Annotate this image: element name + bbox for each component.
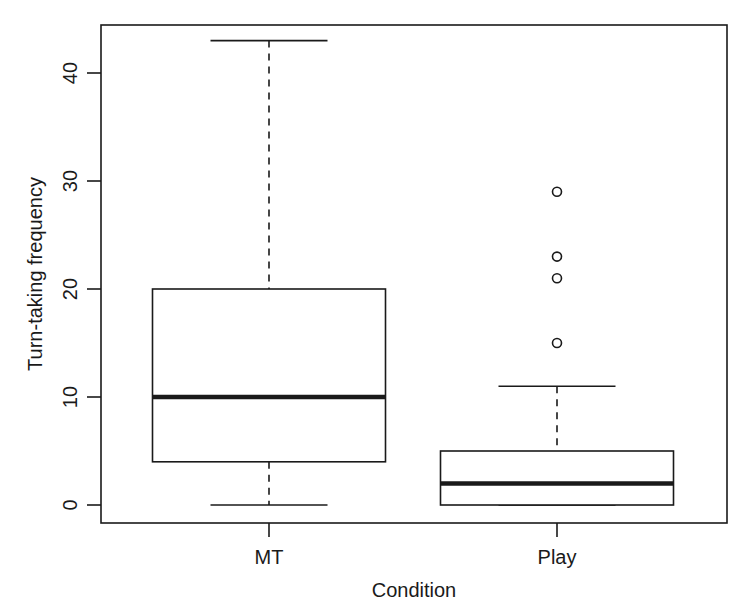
x-tick-label-mt: MT bbox=[255, 546, 284, 568]
boxplot-chart: 010203040 MTPlay Condition Turn-taking f… bbox=[0, 0, 744, 615]
x-tick-label-play: Play bbox=[538, 546, 577, 568]
y-tick-label: 40 bbox=[59, 62, 81, 84]
iqr-box bbox=[441, 451, 674, 505]
outlier-point bbox=[553, 339, 562, 348]
y-tick-label: 20 bbox=[59, 278, 81, 300]
box-play bbox=[441, 187, 674, 505]
y-tick-label: 30 bbox=[59, 170, 81, 192]
y-tick-label: 0 bbox=[59, 499, 81, 510]
y-axis: 010203040 bbox=[59, 62, 101, 511]
boxes bbox=[153, 41, 674, 505]
iqr-box bbox=[153, 289, 386, 462]
outlier-point bbox=[553, 187, 562, 196]
y-axis-title: Turn-taking frequency bbox=[24, 177, 46, 371]
outlier-point bbox=[553, 274, 562, 283]
x-axis-title: Condition bbox=[372, 579, 457, 601]
x-axis: MTPlay bbox=[255, 523, 577, 568]
box-mt bbox=[153, 41, 386, 505]
outlier-point bbox=[553, 252, 562, 261]
y-tick-label: 10 bbox=[59, 386, 81, 408]
